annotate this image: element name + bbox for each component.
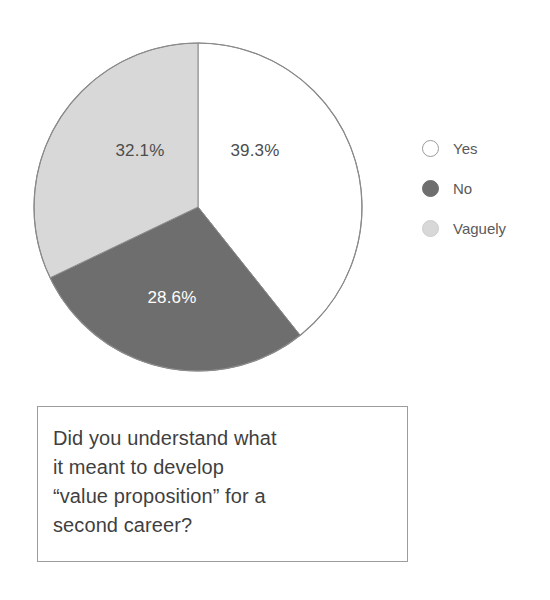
caption-line: it meant to develop xyxy=(53,453,397,482)
pie-slice-group xyxy=(34,43,362,371)
legend-item-vaguely[interactable]: Vaguely xyxy=(422,208,547,248)
pie-slice-value-label: 39.3% xyxy=(230,141,279,160)
legend-swatch-circle-icon xyxy=(422,220,439,237)
caption-text: Did you understand what it meant to deve… xyxy=(53,424,397,540)
caption-line: “value proposition” for a xyxy=(53,482,397,511)
legend-label-vaguely: Vaguely xyxy=(453,220,506,237)
pie-slice-value-label: 32.1% xyxy=(115,141,164,160)
legend-item-yes[interactable]: Yes xyxy=(422,128,547,168)
caption-line: second career? xyxy=(53,511,397,540)
legend-item-no[interactable]: No xyxy=(422,168,547,208)
chart-legend: Yes No Vaguely xyxy=(422,128,547,248)
caption-line: Did you understand what xyxy=(53,424,397,453)
legend-label-yes: Yes xyxy=(453,140,477,157)
pie-slice-value-label: 28.6% xyxy=(147,288,196,307)
pie-chart-figure: 39.3%28.6%32.1% Yes No Vaguely Did you u… xyxy=(0,0,550,600)
pie-chart-svg: 39.3%28.6%32.1% xyxy=(33,42,363,372)
legend-label-no: No xyxy=(453,180,472,197)
caption-box: Did you understand what it meant to deve… xyxy=(37,406,408,562)
legend-swatch-circle-icon xyxy=(422,180,439,197)
legend-swatch-circle-icon xyxy=(422,140,439,157)
pie-chart: 39.3%28.6%32.1% xyxy=(33,42,363,372)
